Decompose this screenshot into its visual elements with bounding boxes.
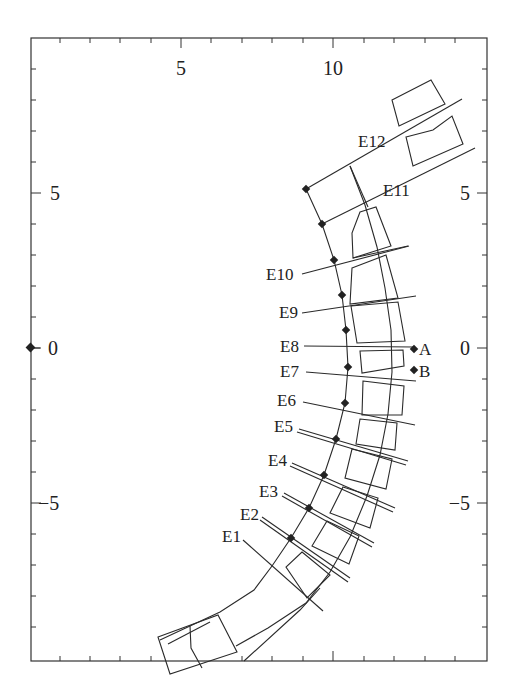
y-left-tick-label-neg5: −5 bbox=[38, 492, 59, 514]
label-e11: E11 bbox=[383, 181, 410, 200]
right-axis-ticks bbox=[477, 69, 487, 627]
y-right-tick-label-neg5: −5 bbox=[449, 492, 470, 514]
y-left-tick-label-5: 5 bbox=[50, 182, 60, 204]
magnet-block-9 bbox=[345, 449, 392, 489]
label-e1: E1 bbox=[222, 527, 241, 546]
line-e6 bbox=[303, 402, 415, 425]
line-e3 bbox=[284, 493, 374, 543]
magnet-block-11 bbox=[312, 521, 359, 564]
line-e2b bbox=[260, 520, 348, 582]
line-e10 bbox=[302, 246, 409, 274]
top-axis-ticks bbox=[60, 38, 455, 48]
inner-rail bbox=[160, 189, 348, 640]
bottom-axis-ticks bbox=[60, 651, 455, 661]
line-e7 bbox=[306, 372, 416, 381]
label-e12: E12 bbox=[358, 132, 385, 151]
magnet-block-7 bbox=[362, 381, 404, 415]
magnet-block-5 bbox=[351, 302, 405, 343]
point-a-marker bbox=[410, 345, 418, 353]
origin-marker bbox=[26, 343, 40, 353]
magnet-block-4 bbox=[350, 255, 398, 304]
x-tick-label-10: 10 bbox=[323, 57, 343, 79]
line-e4 bbox=[292, 463, 395, 508]
magnet-block-10 bbox=[330, 487, 378, 528]
label-e3: E3 bbox=[259, 482, 278, 501]
x-tick-label-5: 5 bbox=[176, 57, 186, 79]
magnet-block-1 bbox=[392, 80, 445, 126]
diagram-canvas: 5 10 5 0 −5 5 0 −5 bbox=[0, 0, 514, 693]
point-b-marker bbox=[410, 366, 418, 374]
end-block bbox=[158, 615, 237, 674]
label-e7: E7 bbox=[280, 362, 299, 381]
magnet-block-3 bbox=[352, 207, 391, 258]
point-a-label: A bbox=[419, 340, 432, 359]
end-block-divider bbox=[190, 626, 202, 668]
y-right-tick-label-5: 5 bbox=[460, 182, 470, 204]
y-right-tick-label-0: 0 bbox=[460, 337, 470, 359]
label-e8: E8 bbox=[280, 337, 299, 356]
outer-rail bbox=[236, 166, 392, 646]
label-e2: E2 bbox=[240, 505, 259, 524]
label-e10: E10 bbox=[266, 265, 293, 284]
divider-e10a bbox=[353, 246, 408, 258]
label-e6: E6 bbox=[277, 391, 296, 410]
line-e8 bbox=[304, 346, 414, 347]
label-e9: E9 bbox=[279, 303, 298, 322]
point-b-label: B bbox=[419, 362, 430, 381]
connector-e12 bbox=[350, 166, 368, 207]
label-e4: E4 bbox=[268, 451, 287, 470]
magnet-block-6 bbox=[360, 350, 404, 373]
y-left-tick-label-0: 0 bbox=[48, 337, 58, 359]
line-e5b bbox=[297, 432, 406, 465]
label-e5: E5 bbox=[274, 417, 293, 436]
line-e5 bbox=[299, 429, 408, 461]
magnet-block-8 bbox=[356, 419, 397, 450]
